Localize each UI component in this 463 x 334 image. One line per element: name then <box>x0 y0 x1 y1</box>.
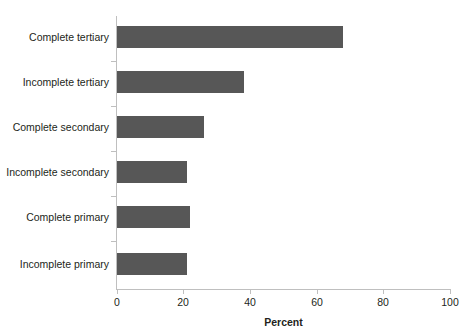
category-label-complete-primary: Complete primary <box>0 211 109 223</box>
bar-chart: Complete tertiary Incomplete tertiary Co… <box>0 0 463 334</box>
x-axis-tick <box>450 289 451 294</box>
x-axis-tick <box>183 289 184 294</box>
x-axis-tick <box>250 289 251 294</box>
x-tick-label: 60 <box>297 296 337 308</box>
x-axis-tick <box>117 289 118 294</box>
category-label-incomplete-primary: Incomplete primary <box>0 258 109 270</box>
y-axis-tick <box>111 196 116 197</box>
y-axis-tick <box>111 241 116 242</box>
bar <box>117 206 190 228</box>
category-label-incomplete-tertiary: Incomplete tertiary <box>0 76 109 88</box>
x-tick-label: 80 <box>363 296 403 308</box>
y-axis-line <box>116 16 117 290</box>
x-tick-label: 40 <box>230 296 270 308</box>
category-label-incomplete-secondary: Incomplete secondary <box>0 166 109 178</box>
y-axis-tick <box>111 151 116 152</box>
bar <box>117 26 343 48</box>
x-tick-label: 20 <box>163 296 203 308</box>
bar <box>117 253 187 275</box>
x-axis-line <box>116 289 450 290</box>
bar <box>117 161 187 183</box>
y-axis-tick <box>111 61 116 62</box>
x-axis-tick <box>383 289 384 294</box>
bar <box>117 71 244 93</box>
bar <box>117 116 204 138</box>
category-label-complete-secondary: Complete secondary <box>0 121 109 133</box>
cropped-caption-remnant <box>8 0 448 9</box>
category-label-complete-tertiary: Complete tertiary <box>0 31 109 43</box>
x-axis-tick <box>317 289 318 294</box>
x-tick-label: 100 <box>430 296 463 308</box>
x-axis-title: Percent <box>117 316 450 328</box>
y-axis-tick <box>111 106 116 107</box>
x-tick-label: 0 <box>97 296 137 308</box>
